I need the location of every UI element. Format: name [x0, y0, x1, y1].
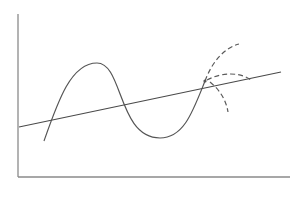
wave-curve [44, 63, 205, 141]
diagram-canvas [0, 0, 301, 199]
dashed-arc-upward-branch [205, 44, 239, 81]
junction-point [203, 79, 206, 82]
diagram-figure [0, 0, 301, 199]
straight-trend-line [19, 72, 281, 127]
dashed-branch-arcs [205, 44, 251, 112]
